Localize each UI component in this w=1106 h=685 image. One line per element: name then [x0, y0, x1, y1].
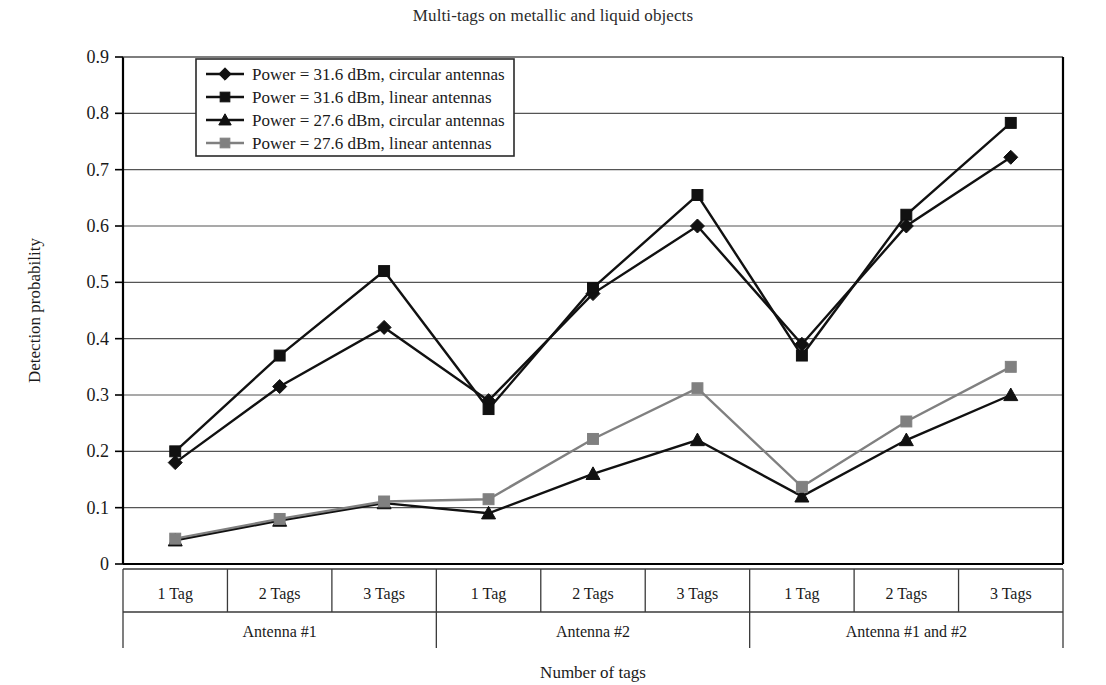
x-axis-title: Number of tags: [540, 663, 646, 682]
y-tick-label: 0.1: [87, 498, 110, 518]
data-point-square: [220, 138, 230, 148]
series-line: [175, 157, 1011, 462]
data-point-square: [588, 433, 599, 444]
data-point-square: [796, 350, 807, 361]
x-category-label: 2 Tags: [572, 585, 614, 603]
legend-label-3: Power = 27.6 dBm, linear antennas: [252, 134, 492, 153]
y-tick-label: 0: [100, 554, 109, 574]
y-tick-label: 0.6: [87, 216, 110, 236]
data-point-square: [170, 533, 181, 544]
x-group-label: Antenna #1 and #2: [846, 623, 967, 640]
data-point-square: [692, 190, 703, 201]
x-category-label: 1 Tag: [784, 585, 819, 603]
legend: Power = 31.6 dBm, circular antennasPower…: [196, 59, 514, 156]
y-tick-label: 0.4: [87, 329, 110, 349]
data-point-square: [1005, 361, 1016, 372]
series-0: [168, 150, 1018, 469]
data-point-square: [274, 513, 285, 524]
x-category-label: 3 Tags: [363, 585, 405, 603]
y-tick-label: 0.7: [87, 160, 110, 180]
data-point-square: [692, 383, 703, 394]
y-tick-label: 0.8: [87, 103, 110, 123]
legend-label-0: Power = 31.6 dBm, circular antennas: [252, 65, 505, 84]
line-chart: 00.10.20.30.40.50.60.70.80.91 Tag2 Tags3…: [0, 0, 1106, 685]
y-tick-label: 0.9: [87, 47, 110, 67]
data-point-triangle: [1004, 388, 1018, 401]
x-category-label: 1 Tag: [157, 585, 192, 603]
data-point-square: [588, 283, 599, 294]
data-point-diamond: [1004, 150, 1018, 164]
x-group-label: Antenna #1: [243, 623, 317, 640]
data-point-square: [379, 496, 390, 507]
data-point-triangle: [899, 433, 913, 446]
series-2: [168, 388, 1018, 546]
y-tick-label: 0.2: [87, 441, 110, 461]
y-tick-label: 0.3: [87, 385, 110, 405]
series-line: [175, 367, 1011, 539]
series-1: [170, 117, 1016, 456]
y-tick-label: 0.5: [87, 272, 110, 292]
data-point-square: [901, 416, 912, 427]
x-category-label: 3 Tags: [990, 585, 1032, 603]
data-point-square: [901, 209, 912, 220]
data-point-square: [483, 404, 494, 415]
legend-label-1: Power = 31.6 dBm, linear antennas: [252, 88, 492, 107]
data-point-square: [220, 92, 230, 102]
x-group-label: Antenna #2: [556, 623, 630, 640]
chart-figure: Multi-tags on metallic and liquid object…: [0, 0, 1106, 685]
data-point-square: [796, 481, 807, 492]
data-point-square: [379, 266, 390, 277]
x-category-label: 2 Tags: [885, 585, 927, 603]
data-point-triangle: [690, 433, 704, 446]
data-point-square: [274, 350, 285, 361]
legend-label-2: Power = 27.6 dBm, circular antennas: [252, 111, 505, 130]
data-point-square: [1005, 117, 1016, 128]
x-category-label: 3 Tags: [677, 585, 719, 603]
data-point-square: [170, 446, 181, 457]
x-category-label: 2 Tags: [259, 585, 301, 603]
y-axis-title: Detection probability: [25, 238, 44, 383]
series-3: [170, 361, 1016, 544]
data-point-square: [483, 494, 494, 505]
x-category-label: 1 Tag: [471, 585, 506, 603]
